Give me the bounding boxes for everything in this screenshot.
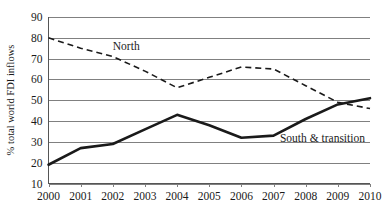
x-tick-label: 2010: [359, 190, 382, 202]
x-tick-label: 2008: [294, 190, 317, 202]
y-tick-label: 50: [31, 94, 43, 106]
series-line-north: [49, 38, 371, 109]
x-tick-label: 2004: [166, 190, 189, 202]
y-axis-title: % total world FDI inflows: [5, 45, 16, 156]
y-axis-tick-labels: 102030405060708090: [31, 11, 43, 190]
x-tick-label: 2005: [198, 190, 221, 202]
series-label-north: North: [113, 40, 140, 52]
y-tick-label: 70: [31, 53, 43, 65]
x-tick-label: 2006: [230, 190, 253, 202]
x-tick-label: 2000: [37, 190, 60, 202]
y-tick-label: 60: [31, 73, 43, 85]
y-tick-label: 80: [31, 32, 43, 44]
series-label-south-transition: South & transition: [280, 132, 365, 144]
y-tick-label: 20: [31, 157, 43, 169]
x-tick-label: 2009: [326, 190, 349, 202]
x-tick-label: 2007: [262, 190, 285, 202]
x-axis-tick-labels: 2000200120022003200420052006200720082009…: [37, 190, 382, 202]
fdi-inflows-line-chart: 102030405060708090 200020012002200320042…: [0, 0, 387, 216]
gridlines: [49, 18, 371, 185]
y-tick-label: 90: [31, 11, 43, 23]
x-tick-label: 2003: [133, 190, 156, 202]
y-tick-label: 30: [31, 136, 43, 148]
x-tick-label: 2002: [101, 190, 124, 202]
y-tick-label: 10: [31, 178, 43, 190]
x-tick-label: 2001: [69, 190, 92, 202]
chart-canvas: 102030405060708090 200020012002200320042…: [0, 0, 387, 216]
y-tick-label: 40: [31, 115, 43, 127]
